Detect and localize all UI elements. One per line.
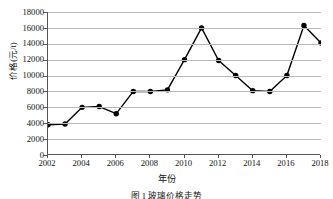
x-tick-mark xyxy=(115,155,116,158)
gridline xyxy=(48,139,321,140)
chart-figure: 价格(元/t) 18000160001400012000100008000600… xyxy=(0,0,333,199)
y-tick-label: 10000 xyxy=(10,71,44,80)
x-tick-label: 2018 xyxy=(300,158,333,168)
gridline xyxy=(48,76,321,77)
data-point-marker xyxy=(114,111,119,116)
y-tick-label: 2000 xyxy=(10,135,44,144)
gridline xyxy=(48,107,321,108)
line-series xyxy=(48,12,321,155)
x-tick-mark xyxy=(320,155,321,158)
gridline xyxy=(48,91,321,92)
gridline xyxy=(48,60,321,61)
x-axis-title: 年份 xyxy=(0,171,333,185)
x-tick-mark xyxy=(149,155,150,158)
y-tick-label: 6000 xyxy=(10,103,44,112)
plot-area xyxy=(47,12,320,155)
figure-caption: 图 1 玻璃价格走势 xyxy=(0,189,333,199)
x-tick-mark xyxy=(184,155,185,158)
y-tick-mark xyxy=(43,107,47,108)
x-axis-tick-labels: 200220042006200820102012201420162018 xyxy=(0,158,333,172)
y-tick-mark xyxy=(43,76,47,77)
y-tick-mark xyxy=(43,60,47,61)
y-tick-label: 4000 xyxy=(10,119,44,128)
y-tick-mark xyxy=(43,91,47,92)
x-tick-mark xyxy=(47,155,48,158)
y-tick-mark xyxy=(43,123,47,124)
y-tick-label: 16000 xyxy=(10,24,44,33)
y-tick-mark xyxy=(43,28,47,29)
gridline xyxy=(48,28,321,29)
y-tick-label: 8000 xyxy=(10,87,44,96)
series-layer xyxy=(48,12,321,155)
x-tick-mark xyxy=(81,155,82,158)
y-tick-label: 18000 xyxy=(10,8,44,17)
y-tick-mark xyxy=(43,139,47,140)
gridline xyxy=(48,44,321,45)
y-tick-mark xyxy=(43,12,47,13)
gridline xyxy=(48,12,321,13)
gridline xyxy=(48,123,321,124)
x-tick-mark xyxy=(252,155,253,158)
y-tick-label: 14000 xyxy=(10,39,44,48)
x-tick-mark xyxy=(218,155,219,158)
x-tick-mark xyxy=(286,155,287,158)
y-tick-mark xyxy=(43,44,47,45)
y-tick-label: 12000 xyxy=(10,55,44,64)
